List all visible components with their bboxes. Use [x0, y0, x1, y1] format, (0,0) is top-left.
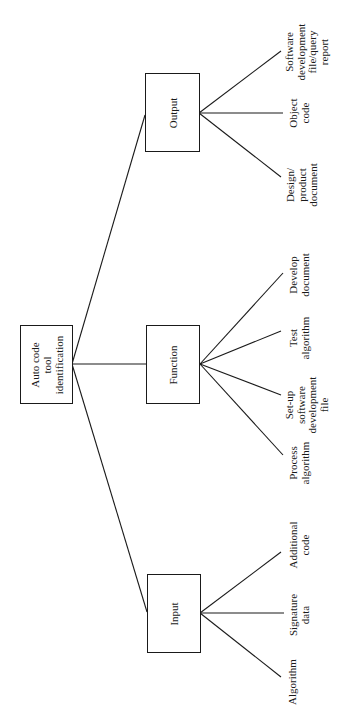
- edge-input-additional: [200, 552, 281, 613]
- edge-input-algorithm: [200, 613, 281, 677]
- output-node: Output: [145, 73, 200, 152]
- root-label: Auto code tool identification: [29, 335, 65, 394]
- output-label: Output: [167, 97, 179, 128]
- edge-function-test: [200, 331, 281, 364]
- edge-function-develop: [200, 273, 283, 364]
- edge-root-output: [72, 115, 145, 364]
- input-label: Input: [168, 602, 180, 625]
- edge-root-input: [72, 364, 147, 612]
- edge-output-software: [199, 51, 281, 113]
- edge-output-design: [199, 113, 281, 177]
- input-node: Input: [147, 574, 201, 653]
- function-node: Function: [146, 325, 200, 404]
- function-label: Function: [167, 345, 179, 384]
- edge-function-process: [200, 364, 283, 455]
- edge-function-setup: [200, 364, 281, 395]
- root-node: Auto code tool identification: [20, 325, 73, 404]
